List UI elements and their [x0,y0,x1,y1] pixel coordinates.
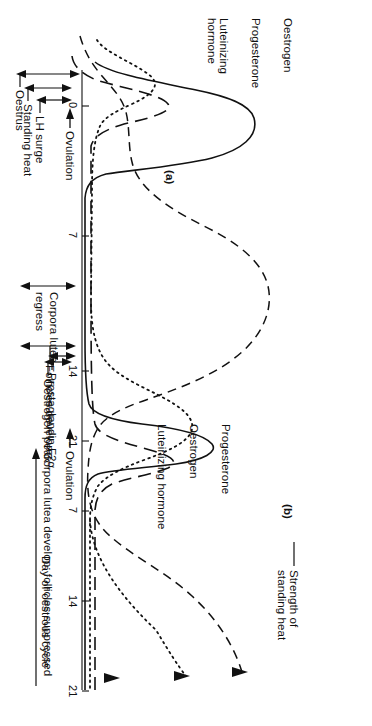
xtick-14-b: 14 [66,595,79,607]
annotation-lh-surge: LH surge [33,116,46,163]
oestrogen-arrowhead [174,671,190,681]
annotation-ovulation-a: Ovulation [63,131,76,180]
xtick-21-a: 21 [66,435,79,447]
x-axis-title: Day of oestrous cycle [39,556,52,668]
xtick-21-b: 21 [66,685,79,697]
luteinizing-hormone-arrowhead [104,673,120,683]
curve-oestrogen-b [90,520,186,676]
curve-arrowheads-b [104,667,248,683]
annotation-oestrus: Oestrus [13,90,26,131]
panel-label-b: (b) [281,504,294,519]
curve-oestrogen-a [90,40,192,690]
standing-heat-line1: Strength of [288,570,300,640]
curve-label-progesterone-a: Progesterone [249,18,262,88]
xtick-7-a: 7 [66,232,79,238]
curve-label-standing-heat-b: Strength of standing heat [275,570,300,640]
xtick-14-a: 14 [66,365,79,377]
curve-label-luteinizing-hormone-a: Luteinizing hormone [205,18,230,74]
oestrous-cycle-figure: (a) (b) Oestrogen Progesterone Luteinizi… [0,0,372,726]
standing-heat-line2: standing heat [275,570,287,640]
curve-progesterone-a [80,36,269,672]
curve-label-luteinizing-hormone-b: Luteinizing hormone [155,424,168,529]
curve-label-luteinizing-hormone-a-line1: Luteinizing [218,18,230,74]
annotation-corpora-lutea-regress-2: regress [33,292,46,331]
corpora-lutea-regress-arrow [20,282,76,290]
xtick-7-b: 7 [66,507,79,513]
oestrus-arrow [16,70,80,87]
curve-label-oestrogen-b: Oestrogen [187,424,200,479]
annotation-corpora-lutea-regress-1: Corpora lutea [47,292,60,363]
plot-area: (a) (b) Oestrogen Progesterone Luteinizi… [0,0,372,726]
ovulation-arrow-a [66,108,74,128]
annotation-ovulation-b: Ovulation [63,451,76,500]
curve-standing-heat-a [85,62,255,690]
curve-label-progesterone-b: Progesterone [219,424,232,494]
plot-curves [0,0,372,726]
panel-label-a: (a) [163,170,176,184]
xtick-0: 0 [66,102,79,108]
curve-label-oestrogen-a: Oestrogen [281,18,294,73]
curve-label-luteinizing-hormone-a-line2: hormone [205,18,217,74]
progesterone-arrowhead [232,667,248,677]
annotation-oestrogen-peak: Oestrogen peak [41,379,54,462]
